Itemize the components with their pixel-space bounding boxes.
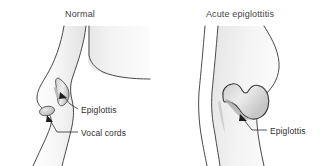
- normal-airway-illustration: [0, 0, 160, 166]
- panel-title-acute-epiglottitis: Acute epiglottitis: [160, 9, 320, 19]
- label-vocal-cords: Vocal cords: [81, 128, 126, 138]
- label-epiglottis-normal: Epiglottis: [81, 105, 117, 115]
- panel-normal: Normal Epiglottis Vocal cords: [0, 0, 160, 166]
- panel-acute-epiglottitis: Acute epiglottitis Epiglottis: [160, 0, 320, 166]
- acute-epiglottitis-illustration: [160, 0, 320, 166]
- panel-title-normal: Normal: [0, 9, 160, 19]
- acute-anterior-outline: [199, 26, 207, 166]
- posterior-soft-tissue-shading: [88, 26, 150, 79]
- epiglottitis-comparison-figure: Normal Epiglottis Vocal cords: [0, 0, 320, 166]
- label-epiglottis-acute: Epiglottis: [270, 126, 306, 136]
